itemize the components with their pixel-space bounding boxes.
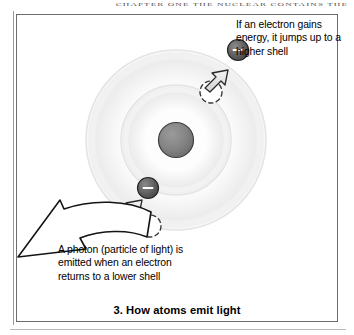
callout-electron-absorbs-energy: If an electron gains energy, it jumps up… xyxy=(236,18,348,58)
running-header: CHAPTER ONE THE NUCLEAR CONTAINS THE xyxy=(0,0,354,8)
page-canvas: CHAPTER ONE THE NUCLEAR CONTAINS THE xyxy=(0,0,354,335)
figure-caption: 3. How atoms emit light xyxy=(0,304,354,316)
running-header-text: CHAPTER ONE THE NUCLEAR CONTAINS THE xyxy=(116,2,348,8)
callout-photon-emitted: A photon (particle of light) is emitted … xyxy=(58,243,188,283)
page-bottom-rule xyxy=(10,329,346,330)
